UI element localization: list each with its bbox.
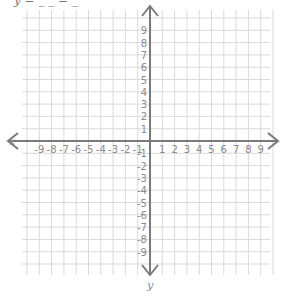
- x-tick-label: 1: [159, 144, 165, 155]
- x-tick-label: 9: [258, 144, 264, 155]
- y-tick-label: -8: [137, 234, 147, 245]
- x-tick-label: -2: [120, 144, 130, 155]
- x-tick-label: 6: [221, 144, 227, 155]
- y-tick-label: -4: [137, 185, 147, 196]
- y-tick-label: -1: [137, 148, 147, 159]
- x-axis-label: x: [9, 135, 16, 148]
- x-tick-label: 3: [184, 144, 190, 155]
- x-tick-label: -9: [34, 144, 44, 155]
- y-tick-label: -5: [137, 198, 147, 209]
- y-tick-label: -2: [137, 161, 147, 172]
- y-tick-label: 2: [141, 111, 147, 122]
- y-tick-label: 1: [141, 124, 147, 135]
- y-tick-label: 6: [141, 62, 147, 73]
- y-tick-label: -3: [137, 173, 147, 184]
- coordinate-plane: -9-8-7-6-5-4-3-2-1123456789 987654321-1-…: [0, 0, 285, 299]
- x-tick-label: -7: [59, 144, 69, 155]
- y-tick-label: 5: [141, 75, 147, 86]
- grid-lines: [22, 10, 273, 275]
- y-tick-label: -6: [137, 210, 147, 221]
- x-tick-label: 5: [208, 144, 214, 155]
- y-tick-label: -9: [137, 247, 147, 258]
- x-tick-label: -5: [84, 144, 94, 155]
- x-tick-label: 8: [245, 144, 251, 155]
- x-tick-label: -4: [96, 144, 106, 155]
- y-tick-label: 7: [141, 50, 147, 61]
- y-tick-label: 4: [141, 87, 147, 98]
- x-tick-label: -6: [71, 144, 81, 155]
- x-tick-label: 2: [171, 144, 177, 155]
- x-tick-label: 7: [233, 144, 239, 155]
- y-tick-label: -7: [137, 222, 147, 233]
- y-tick-label: 9: [141, 25, 147, 36]
- x-tick-label: -3: [108, 144, 118, 155]
- y-tick-label: 8: [141, 38, 147, 49]
- x-tick-label: -8: [47, 144, 57, 155]
- y-axis-label: y: [146, 279, 154, 292]
- y-tick-label: 3: [141, 99, 147, 110]
- x-tick-label: 4: [196, 144, 202, 155]
